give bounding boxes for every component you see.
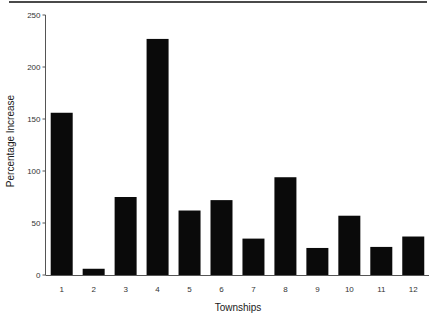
y-axis: 050100150200250: [27, 11, 45, 280]
x-axis: 123456789101112: [46, 276, 430, 295]
bar-township-7: [242, 239, 264, 275]
bar-township-8: [274, 177, 296, 275]
x-tick-label: 11: [377, 285, 386, 294]
bar-township-12: [402, 237, 424, 275]
x-tick-label: 9: [315, 285, 320, 294]
bar-township-4: [147, 39, 169, 275]
y-tick-label: 250: [27, 11, 41, 20]
x-tick-label: 4: [155, 285, 160, 294]
y-tick-label: 0: [36, 271, 41, 280]
bar-township-9: [306, 248, 328, 275]
x-tick-label: 10: [345, 285, 354, 294]
y-axis-title: Percentage Increase: [5, 94, 16, 187]
bar-township-2: [83, 269, 105, 275]
y-tick-label: 50: [32, 219, 41, 228]
bar-township-10: [338, 216, 360, 275]
bar-township-3: [115, 197, 137, 275]
bar-township-11: [370, 247, 392, 275]
x-tick-label: 2: [91, 285, 96, 294]
x-axis-title: Townships: [215, 302, 262, 313]
y-tick-label: 100: [27, 167, 41, 176]
x-tick-label: 8: [283, 285, 288, 294]
x-tick-label: 6: [219, 285, 224, 294]
bar-township-5: [179, 211, 201, 275]
x-tick-label: 7: [251, 285, 256, 294]
y-tick-label: 150: [27, 115, 41, 124]
x-tick-label: 5: [187, 285, 192, 294]
bar-township-1: [51, 113, 73, 275]
bar-township-6: [211, 200, 233, 275]
y-tick-label: 200: [27, 63, 41, 72]
bars: [51, 39, 425, 275]
x-tick-label: 3: [123, 285, 128, 294]
x-tick-label: 1: [59, 285, 64, 294]
bar-chart: 050100150200250 123456789101112 Percenta…: [0, 0, 432, 320]
x-tick-label: 12: [409, 285, 418, 294]
